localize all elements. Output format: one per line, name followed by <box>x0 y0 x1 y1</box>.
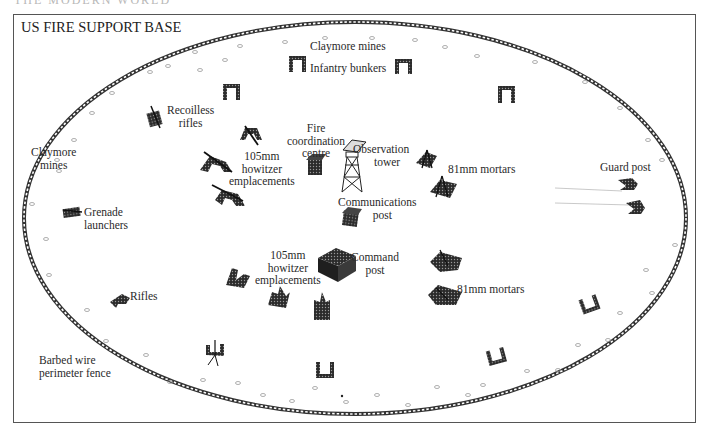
mortar-icons-bottom <box>428 250 462 305</box>
label-line: coordination <box>287 135 345 148</box>
infantry-bunker-u-icons <box>318 295 598 376</box>
label-line: post <box>351 264 399 277</box>
label-line: Fire <box>287 122 345 135</box>
label-infantry-bunkers: Infantry bunkers <box>310 62 386 75</box>
recoilless-rifle-icon <box>146 106 162 128</box>
label-line: tower <box>353 156 409 169</box>
label-line: mines <box>31 159 76 172</box>
label-line: howitzer <box>229 163 295 176</box>
label-line: emplacements <box>255 274 321 287</box>
label-line: Claymore <box>31 146 76 159</box>
label-barbed-wire-fence: Barbed wire perimeter fence <box>39 354 111 379</box>
grenade-launcher-icon <box>63 207 82 218</box>
label-81mm-mortars-top: 81mm mortars <box>448 163 515 176</box>
label-line: Observation <box>353 143 409 156</box>
label-105mm-howitzer-bottom: 105mm howitzer emplacements <box>255 249 321 287</box>
label-line: rifles <box>167 117 214 130</box>
label-line: Communications <box>338 196 417 209</box>
guard-post-icons <box>618 178 645 214</box>
label-line: post <box>338 209 417 222</box>
label-fire-coordination-centre: Fire coordination centre <box>287 122 345 160</box>
label-line: 105mm <box>255 249 321 262</box>
label-line: centre <box>287 147 345 160</box>
guard-post-sightlines <box>555 188 630 205</box>
label-line: Recoilless <box>167 104 214 117</box>
label-line: 105mm <box>229 150 295 163</box>
label-rifles: Rifles <box>130 290 157 303</box>
marker-dot <box>341 395 343 397</box>
label-observation-tower: Observation tower <box>353 143 409 168</box>
label-line: launchers <box>84 219 128 232</box>
label-line: emplacements <box>229 175 295 188</box>
label-guard-post: Guard post <box>600 161 651 174</box>
label-line: howitzer <box>255 262 321 275</box>
label-81mm-mortars-bottom: 81mm mortars <box>457 283 524 296</box>
label-line: Barbed wire <box>39 354 111 367</box>
rifle-emplacement-icon <box>110 294 130 308</box>
label-line: Command <box>351 251 399 264</box>
label-communications-post: Communications post <box>338 196 417 221</box>
label-line: perimeter fence <box>39 367 111 380</box>
label-claymore-mines-left: Claymore mines <box>31 146 76 171</box>
label-recoilless-rifles: Recoilless rifles <box>167 104 214 129</box>
label-105mm-howitzer-top: 105mm howitzer emplacements <box>229 150 295 188</box>
label-claymore-mines-top: Claymore mines <box>310 40 386 53</box>
label-grenade-launchers: Grenade launchers <box>84 206 128 231</box>
label-command-post: Command post <box>351 251 399 276</box>
tripod-bunker-icon <box>206 340 224 366</box>
label-line: Grenade <box>84 206 128 219</box>
